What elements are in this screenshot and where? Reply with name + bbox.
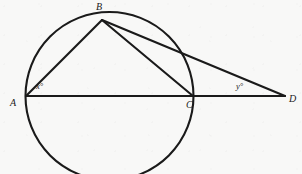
- point-label-c: C: [186, 100, 193, 110]
- angle-label-y: y°: [236, 82, 243, 91]
- point-label-b: B: [96, 2, 102, 12]
- main-circle: [26, 12, 194, 174]
- point-label-a: A: [10, 98, 16, 108]
- angle-label-x: x°: [36, 82, 43, 91]
- point-label-d: D: [289, 94, 296, 104]
- segment-BC: [102, 20, 193, 96]
- geometry-figure: B A C D x° y°: [0, 0, 302, 174]
- geometry-canvas: [0, 0, 302, 174]
